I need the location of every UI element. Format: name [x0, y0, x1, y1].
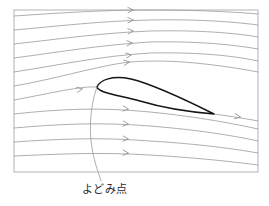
figure-caption: よどみ点	[0, 183, 269, 196]
caption-label: よどみ点	[82, 183, 128, 196]
flow-diagram-svg	[0, 0, 269, 206]
figure-streamlines-airfoil: よどみ点	[0, 0, 269, 206]
